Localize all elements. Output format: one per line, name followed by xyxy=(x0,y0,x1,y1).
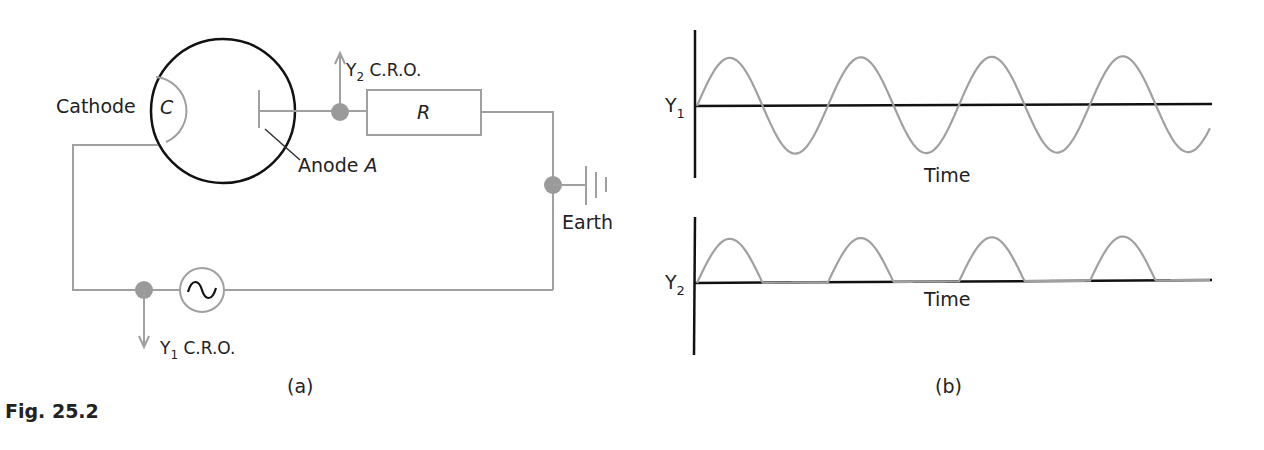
cathode-label: Cathode xyxy=(56,95,136,117)
y2-half-wave xyxy=(697,237,1210,284)
resistor-symbol: R xyxy=(417,101,430,123)
y2-time-label: Time xyxy=(923,288,971,310)
circuit-diagram: Cathode C Anode A R Earth Y2 C.R.O. Y1 C… xyxy=(56,39,613,397)
wire-left xyxy=(73,145,180,290)
figure-caption: Fig. 25.2 xyxy=(5,400,99,422)
panel-a-label: (a) xyxy=(287,375,313,397)
y1-cro-label: Y1 C.R.O. xyxy=(159,338,235,362)
earth-icon xyxy=(553,166,606,205)
y1-time-label: Time xyxy=(923,164,971,186)
figure-canvas: Cathode C Anode A R Earth Y2 C.R.O. Y1 C… xyxy=(0,0,1264,450)
cathode-symbol: C xyxy=(160,96,174,118)
panel-b-label: (b) xyxy=(935,375,962,397)
y1-time-axis xyxy=(695,104,1212,106)
y2-junction-dot xyxy=(331,103,349,121)
anode-label: Anode A xyxy=(298,154,377,176)
earth-label: Earth xyxy=(562,211,613,233)
wire-right xyxy=(481,112,553,290)
y2-cro-label: Y2 C.R.O. xyxy=(345,60,421,84)
anode-pointer xyxy=(265,129,300,160)
y2-axis-label: Y2 xyxy=(664,271,685,298)
y1-axis-label: Y1 xyxy=(664,94,685,121)
waveform-graphs: Y1 Time Y2 Time (b) xyxy=(664,30,1212,397)
y2-axis xyxy=(694,217,695,355)
